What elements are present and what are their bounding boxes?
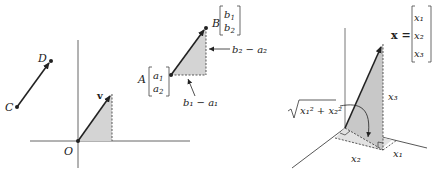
- svg-text:x₃: x₃: [414, 48, 424, 59]
- svg-text:b2: b2: [224, 22, 235, 35]
- point-c: [15, 105, 19, 109]
- diagram-canvas: C D O v A a1 a2 B: [0, 0, 435, 178]
- label-b2-minus-a2: b₂ − a₂: [232, 44, 267, 55]
- label-b1-minus-a1: b₁ − a₁: [183, 97, 218, 108]
- origin-point: [76, 139, 80, 143]
- label-d: D: [37, 52, 47, 65]
- svg-text:x₁² + x₂²: x₁² + x₂²: [300, 105, 342, 116]
- vector-x-3d: x = x₁ x₂ x₃ x₃ x₁² + x₂² x₂ x₁: [288, 6, 431, 164]
- point-a: [169, 73, 173, 77]
- x-column-vector: x₁ x₂ x₃: [412, 6, 431, 62]
- label-a: A: [137, 73, 146, 86]
- svg-text:a1: a1: [153, 70, 163, 83]
- norm-label: x₁² + x₂²: [288, 100, 342, 118]
- label-x2-axis: x₂: [351, 153, 361, 164]
- vector-diagram: C D O v A a1 a2 B: [0, 0, 435, 178]
- label-x3-height: x₃: [388, 91, 398, 102]
- label-v: v: [96, 90, 104, 101]
- svg-text:x₂: x₂: [414, 30, 424, 41]
- label-b: B: [211, 17, 220, 30]
- label-x1-axis: x₁: [393, 148, 403, 159]
- label-c: C: [5, 101, 14, 114]
- svg-text:b1: b1: [224, 9, 235, 22]
- vector-cd: C D: [5, 52, 53, 114]
- svg-text:a2: a2: [153, 83, 164, 96]
- b-column-vector: b1 b2: [220, 6, 240, 35]
- label-x-eq: x =: [391, 29, 411, 42]
- a-column-vector: a1 a2: [149, 67, 169, 96]
- vector-v: O v: [64, 90, 112, 158]
- svg-text:x₁: x₁: [414, 12, 424, 23]
- label-o: O: [64, 145, 73, 158]
- point-d: [49, 59, 53, 63]
- point-b: [204, 26, 208, 30]
- vector-ab: A a1 a2 B b1 b2 b₂ − a₂ b₁ − a₁: [137, 6, 267, 108]
